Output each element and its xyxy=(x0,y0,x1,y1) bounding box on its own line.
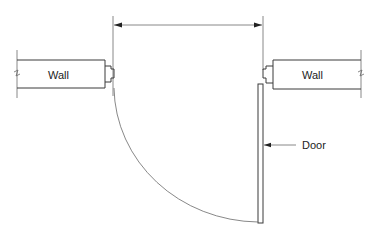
door-arrowhead-icon xyxy=(264,143,271,148)
dimension-line-group xyxy=(113,16,263,96)
left-wall: Wall xyxy=(14,50,114,98)
right-arrowhead-icon xyxy=(254,23,262,28)
door-label: Door xyxy=(302,139,326,151)
left-wall-label: Wall xyxy=(48,69,69,81)
door-leaf xyxy=(258,84,263,223)
right-door-jamb xyxy=(263,66,273,83)
door-swing-arc xyxy=(114,88,258,222)
door-callout: Door xyxy=(264,139,326,151)
left-wall-break-icon xyxy=(14,70,20,76)
right-wall-label: Wall xyxy=(302,69,323,81)
door-plan-diagram: Wall Wall Door xyxy=(0,0,375,239)
left-arrowhead-icon xyxy=(114,23,122,28)
right-wall-break-icon xyxy=(358,70,364,76)
right-wall: Wall xyxy=(263,50,364,98)
door-panel xyxy=(258,84,263,223)
